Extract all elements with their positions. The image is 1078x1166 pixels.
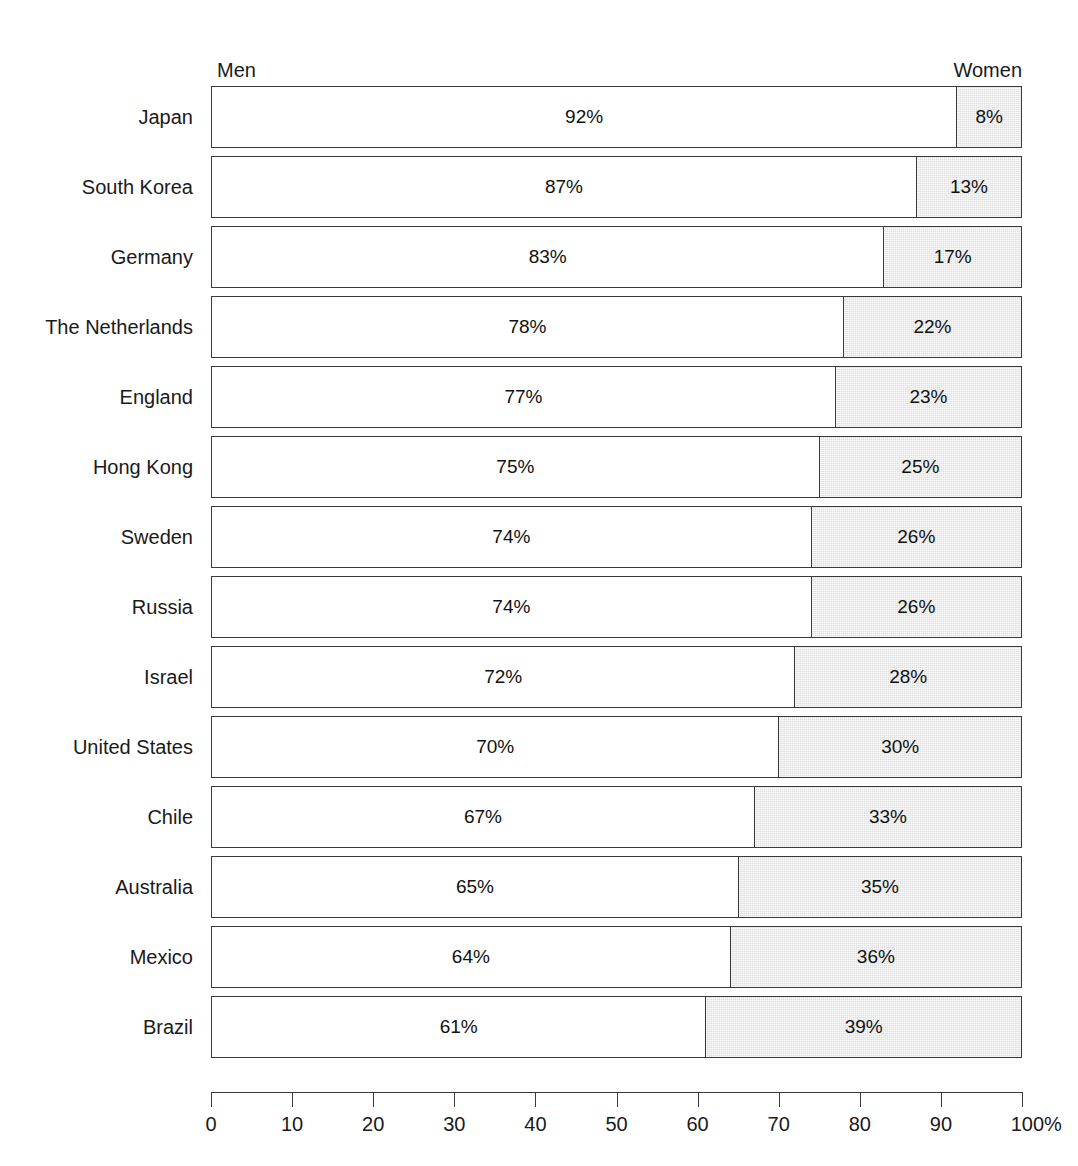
bar-row: 75%25% [211,436,1022,498]
bar-segment-men: 65% [212,857,738,917]
bar-segment-men: 70% [212,717,778,777]
bar-row: 87%13% [211,156,1022,218]
bar-segment-women: 39% [705,997,1021,1057]
bar-segment-women: 28% [794,647,1021,707]
bar-segment-men: 75% [212,437,819,497]
category-label: Brazil [0,1016,193,1038]
x-axis-tick-label: 70 [768,1112,790,1136]
bar-row: 74%26% [211,506,1022,568]
x-axis-tick [454,1092,455,1107]
bar-segment-women: 13% [916,157,1021,217]
bar-segment-women: 26% [811,577,1021,637]
category-label: Mexico [0,946,193,968]
bar-value-men: 78% [508,316,546,338]
x-axis-tick-label: 50 [605,1112,627,1136]
x-axis-tick [941,1092,942,1107]
category-label: England [0,386,193,408]
bar-value-men: 74% [492,596,530,618]
category-label: Japan [0,106,193,128]
bar-value-men: 72% [484,666,522,688]
category-label: United States [0,736,193,758]
bar-segment-men: 72% [212,647,794,707]
bar-row: 65%35% [211,856,1022,918]
bar-row: 61%39% [211,996,1022,1058]
bar-row: 92%8% [211,86,1022,148]
x-axis-tick-label: 10 [281,1112,303,1136]
bar-value-women: 36% [857,946,895,968]
bar-value-men: 92% [565,106,603,128]
bar-value-men: 70% [476,736,514,758]
bar-value-women: 33% [869,806,907,828]
bar-value-women: 22% [913,316,951,338]
category-label: Hong Kong [0,456,193,478]
stacked-bar-chart: Men Women 92%8%87%13%83%17%78%22%77%23%7… [0,0,1078,1166]
bar-value-women: 35% [861,876,899,898]
bar-row: 72%28% [211,646,1022,708]
category-label: Germany [0,246,193,268]
x-axis-tick-label: 40 [524,1112,546,1136]
bar-segment-women: 30% [778,717,1021,777]
bar-value-women: 23% [909,386,947,408]
bar-value-men: 87% [545,176,583,198]
x-axis-tick [211,1092,212,1107]
bar-value-men: 64% [452,946,490,968]
category-label: South Korea [0,176,193,198]
category-label: Israel [0,666,193,688]
bar-row: 67%33% [211,786,1022,848]
x-axis-tick [698,1092,699,1107]
x-axis-tick [373,1092,374,1107]
bar-row: 77%23% [211,366,1022,428]
bar-segment-men: 83% [212,227,883,287]
bar-value-women: 8% [975,106,1002,128]
category-label: Chile [0,806,193,828]
bar-segment-women: 17% [883,227,1021,287]
x-axis-tick [617,1092,618,1107]
bar-segment-men: 74% [212,577,811,637]
category-label: Russia [0,596,193,618]
x-axis-tick-label: 80 [849,1112,871,1136]
bar-row: 74%26% [211,576,1022,638]
bar-value-men: 67% [464,806,502,828]
legend-label-men: Men [217,58,256,82]
bar-value-men: 74% [492,526,530,548]
bar-segment-men: 61% [212,997,705,1057]
bar-segment-men: 67% [212,787,754,847]
x-axis-tick [292,1092,293,1107]
x-axis-tick-label: 100% [1011,1112,1062,1136]
bar-row: 83%17% [211,226,1022,288]
bar-value-women: 26% [897,596,935,618]
bar-row: 70%30% [211,716,1022,778]
bar-segment-men: 87% [212,157,916,217]
bar-segment-women: 8% [956,87,1021,147]
bar-value-women: 30% [881,736,919,758]
bar-value-women: 17% [934,246,972,268]
x-axis-tick-label: 0 [205,1112,216,1136]
bar-value-men: 83% [529,246,567,268]
x-axis-tick-label: 30 [443,1112,465,1136]
bar-segment-men: 78% [212,297,843,357]
bar-segment-women: 22% [843,297,1021,357]
category-label: Australia [0,876,193,898]
bar-segment-men: 92% [212,87,956,147]
plot-area: 92%8%87%13%83%17%78%22%77%23%75%25%74%26… [211,86,1022,1058]
bar-segment-women: 25% [819,437,1021,497]
bar-value-men: 61% [440,1016,478,1038]
category-label: Sweden [0,526,193,548]
bar-segment-women: 33% [754,787,1021,847]
bar-value-women: 13% [950,176,988,198]
bar-segment-women: 35% [738,857,1021,917]
x-axis-tick [1022,1092,1023,1107]
legend-label-women: Women [822,58,1022,82]
x-axis-tick [779,1092,780,1107]
bar-segment-men: 77% [212,367,835,427]
bar-segment-men: 74% [212,507,811,567]
x-axis-tick [535,1092,536,1107]
bar-value-men: 75% [496,456,534,478]
bar-segment-men: 64% [212,927,730,987]
x-axis-tick-label: 60 [686,1112,708,1136]
x-axis-tick [860,1092,861,1107]
bar-value-women: 26% [897,526,935,548]
bar-value-women: 39% [845,1016,883,1038]
bar-value-women: 28% [889,666,927,688]
bar-segment-women: 26% [811,507,1021,567]
